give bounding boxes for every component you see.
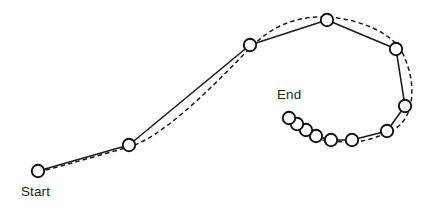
smoothed-trajectory-dashed-path [38,17,412,172]
end-label: End [277,87,301,102]
waypoint-marker [244,39,256,51]
waypoint-marker [32,165,44,177]
waypoint-marker [321,14,333,26]
waypoint-marker [123,139,135,151]
waypoint-marker [325,134,337,146]
measured-waypoints-solid-path [38,20,405,171]
waypoint-marker [390,43,402,55]
start-label: Start [21,184,50,199]
trajectory-diagram: Start End [0,0,434,208]
trajectory-plot-canvas: Start End [0,0,434,208]
waypoint-marker [399,100,411,112]
waypoint-marker [346,134,358,146]
waypoint-marker [283,112,295,124]
waypoint-marker-group [32,14,411,177]
waypoint-marker [381,125,393,137]
